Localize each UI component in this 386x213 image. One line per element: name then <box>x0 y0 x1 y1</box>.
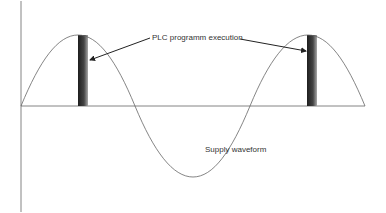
execution-bar-2 <box>307 35 317 106</box>
diagram-canvas <box>0 0 386 213</box>
execution-bar-1 <box>78 35 88 106</box>
arrow-to-bar-2 <box>240 39 306 51</box>
plc-execution-label: PLC programm execution <box>152 33 243 42</box>
arrow-to-bar-1 <box>90 38 150 60</box>
supply-waveform-label: Supply waveform <box>205 145 266 154</box>
